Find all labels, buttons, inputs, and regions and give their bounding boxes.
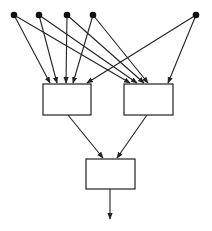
edge-arrow-n5-to-left [87,15,196,83]
input-node-n5 [193,12,200,19]
input-node-n2 [36,12,43,19]
edge-arrow-n2-to-right [39,15,137,83]
edge-arrow-n3-to-right [67,15,144,83]
input-node-n1 [11,12,18,19]
box-bottom [86,159,135,189]
box-left [43,84,91,115]
input-node-n4 [90,12,97,19]
boxes [43,84,173,189]
edge-arrow-n3-to-left [66,15,67,83]
edge-arrow-right-to-bottom [117,115,147,158]
edge-arrow-left-to-bottom [68,115,103,158]
edge-arrow-n4-to-left [73,15,93,83]
network-diagram [0,0,212,231]
input-node-n3 [64,12,71,19]
edge-arrow-n5-to-right [168,15,196,83]
edge-arrow-n4-to-right [93,15,148,83]
box-right [124,84,173,115]
input-nodes [11,12,200,19]
